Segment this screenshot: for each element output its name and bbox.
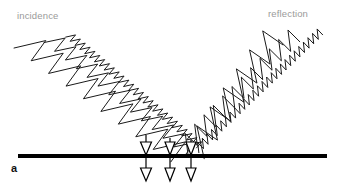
figure-canvas [0, 0, 339, 183]
incident-wave-medium-wavelength [44, 38, 196, 156]
incident-wave-long-wavelength [14, 41, 186, 163]
reflection-figure: incidence reflection a [0, 0, 339, 183]
reflected-wave-group [185, 29, 323, 159]
incidence-label: incidence [17, 11, 59, 21]
arrow-head-lower [141, 168, 152, 181]
penetration-arrow-2 [165, 138, 175, 181]
arrow-head-lower [186, 168, 196, 181]
incident-wave-short-wavelength [65, 35, 201, 148]
reflection-label: reflection [268, 9, 308, 19]
arrow-head-upper [165, 142, 175, 155]
arrow-head-lower [165, 168, 175, 181]
reflected-wave-medium-wavelength [185, 30, 300, 155]
panel-letter-label: a [11, 163, 17, 174]
reflected-wave-short-wavelength [198, 29, 323, 153]
arrow-head-upper [141, 142, 152, 155]
penetration-arrow-3 [186, 140, 196, 181]
